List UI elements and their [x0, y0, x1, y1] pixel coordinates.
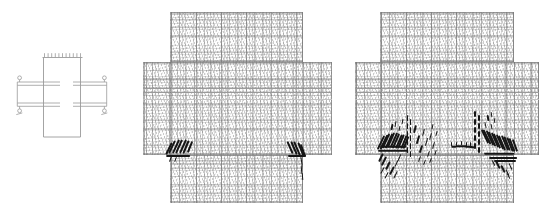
column-edge-line [170, 62, 171, 155]
crack-stroke [407, 139, 409, 145]
crack-stroke [410, 151, 412, 157]
crack-stroke [407, 115, 409, 121]
crack-stroke [378, 149, 408, 151]
support-circle [18, 76, 22, 80]
crack-stroke [410, 135, 412, 141]
column-edge-line [303, 62, 304, 155]
crack-stroke [478, 123, 480, 129]
crack-stroke [478, 115, 480, 121]
mid-band-line [143, 92, 332, 93]
crack-stroke [478, 147, 480, 153]
crack-stroke [410, 143, 412, 149]
crack-stroke [474, 127, 476, 133]
support-hatch [16, 113, 22, 115]
support-circle [103, 76, 107, 80]
faint-band-line [143, 99, 332, 100]
crack-stroke [478, 139, 480, 145]
crack-stroke [489, 156, 517, 158]
crack-stroke [407, 147, 409, 153]
support-circle [18, 109, 22, 113]
support-circle [103, 109, 107, 113]
mid-band-line [143, 88, 332, 89]
crack-stroke [484, 152, 514, 154]
crack-stroke [410, 119, 412, 125]
faint-band-line [355, 99, 539, 100]
crack-stroke [407, 123, 409, 129]
crack-stroke [474, 135, 476, 141]
mesh-region-bottom [170, 155, 303, 203]
crack-stroke [461, 141, 463, 146]
crack-stroke [288, 155, 306, 157]
mesh-region-top [380, 12, 514, 62]
crack-stroke [380, 145, 406, 147]
figure-canvas [0, 0, 558, 213]
mid-band-line [355, 88, 539, 89]
crack-stroke [466, 142, 468, 147]
crack-stroke [478, 131, 480, 137]
mesh-region-band [143, 62, 332, 155]
crack-stroke [474, 119, 476, 125]
mid-band-line [355, 92, 539, 93]
crack-stroke [474, 111, 476, 117]
support-hatch [101, 113, 107, 115]
mesh-region-top [170, 12, 303, 62]
crack-stroke [474, 143, 476, 149]
crack-stroke [410, 127, 412, 133]
crack-stroke [407, 131, 409, 137]
